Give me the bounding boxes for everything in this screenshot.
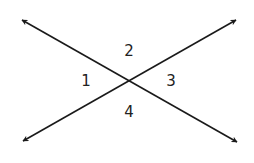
angle-label-3: 3 xyxy=(166,74,176,89)
lines-figure xyxy=(0,0,254,163)
angle-label-1: 1 xyxy=(81,74,91,89)
intersecting-lines-diagram: 1 2 3 4 xyxy=(0,0,254,163)
angle-label-4: 4 xyxy=(124,105,134,120)
angle-label-2: 2 xyxy=(124,44,134,59)
